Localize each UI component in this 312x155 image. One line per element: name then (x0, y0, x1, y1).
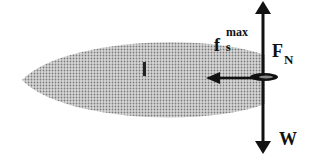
arrowhead-down-icon (255, 141, 271, 154)
contact-point-highlight (259, 76, 273, 79)
weight-label: W (279, 130, 297, 148)
length-marker (143, 62, 146, 76)
normal-force-label: F (272, 42, 283, 60)
friction-subscript: s (226, 41, 231, 53)
friction-superscript: max (226, 26, 248, 38)
friction-label: f (214, 36, 220, 54)
normal-force-subscript: N (284, 53, 293, 66)
arrowhead-up-icon (255, 1, 271, 14)
free-body-diagram (0, 0, 312, 155)
